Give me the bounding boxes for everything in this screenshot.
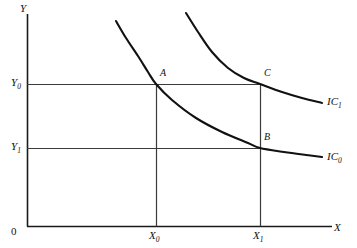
point-label-b: B — [264, 132, 270, 142]
indifference-curve-ic0 — [116, 21, 322, 157]
x-tick-label-x0-subscript: 0 — [156, 235, 160, 244]
curve-label-ic1-base: IC — [327, 95, 338, 107]
x-axis-label: X — [334, 222, 341, 233]
y-tick-label-y0-subscript: 0 — [17, 82, 21, 91]
point-label-a: A — [160, 68, 166, 78]
curve-label-ic1: IC1 — [327, 96, 342, 107]
curve-label-ic0-base: IC — [327, 150, 338, 162]
curve-label-ic0: IC0 — [327, 151, 342, 162]
x-tick-label-x1-base: X — [253, 229, 260, 241]
x-tick-label-x1: X1 — [253, 230, 263, 241]
x-tick-label-x0-base: X — [149, 229, 156, 241]
diagram-canvas — [0, 0, 357, 248]
origin-label: 0 — [11, 226, 17, 237]
x-tick-label-x0: X0 — [149, 230, 159, 241]
curve-label-ic1-subscript: 1 — [338, 101, 342, 110]
x-tick-label-x1-subscript: 1 — [260, 235, 264, 244]
curve-label-ic0-subscript: 0 — [338, 156, 342, 165]
y-axis-label: Y — [20, 3, 26, 14]
y-tick-label-y0: Y0 — [11, 77, 21, 88]
y-tick-label-y1-subscript: 1 — [17, 146, 21, 155]
indifference-curve-figure: Y X 0 Y0 Y1 X0 X1 A B C IC1 IC0 — [0, 0, 357, 248]
y-tick-label-y1: Y1 — [11, 141, 21, 152]
indifference-curve-ic1 — [186, 13, 322, 103]
point-label-c: C — [264, 68, 271, 78]
